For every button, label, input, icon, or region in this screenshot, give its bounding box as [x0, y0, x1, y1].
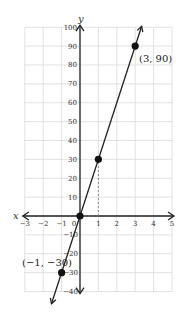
y-tick-label: −10 — [63, 231, 78, 239]
x-tick-label: 1 — [96, 220, 100, 228]
y-tick-label: 90 — [68, 43, 77, 51]
point-label-top: (3, 90) — [139, 53, 172, 64]
y-axis-label: y — [77, 13, 84, 24]
line-chart: xy−3−2−1012345100908070605040302010−10−2… — [0, 0, 184, 313]
y-tick-label: 100 — [64, 24, 77, 32]
y-tick-label: −30 — [63, 269, 78, 277]
y-tick-label: 80 — [68, 61, 77, 69]
y-tick-label: 60 — [68, 99, 77, 107]
x-tick-label: 2 — [115, 220, 119, 228]
data-point — [95, 156, 102, 163]
point-label-bottom: (−1, −30) — [22, 257, 72, 268]
y-tick-label: 40 — [68, 137, 77, 145]
x-axis-label: x — [13, 210, 19, 221]
x-tick-label: 4 — [151, 220, 156, 228]
x-tick-label: 0 — [72, 220, 76, 228]
x-tick-label: −2 — [38, 220, 48, 228]
x-tick-label: −1 — [56, 220, 66, 228]
y-tick-label: 30 — [68, 156, 77, 164]
y-tick-label: −40 — [63, 288, 78, 296]
x-tick-label: 3 — [133, 220, 137, 228]
data-point — [76, 212, 83, 219]
data-point — [58, 269, 65, 276]
x-tick-label: 5 — [170, 220, 174, 228]
data-point — [132, 42, 139, 49]
y-tick-label: 10 — [68, 194, 77, 202]
y-tick-label: 50 — [68, 118, 77, 126]
y-tick-label: 20 — [68, 175, 77, 183]
x-tick-label: −3 — [20, 220, 30, 228]
y-tick-label: 70 — [68, 80, 77, 88]
